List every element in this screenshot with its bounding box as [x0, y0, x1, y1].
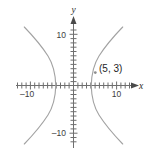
y-tick-label-pos-ten: 10	[57, 30, 67, 40]
point-marker-5-3	[94, 71, 97, 74]
y-axis-arrow-icon	[71, 16, 77, 24]
point-annotation-label: (5, 3)	[99, 63, 122, 74]
x-axis-label: x	[138, 81, 144, 91]
hyperbola-graph-figure: –10 10 10 –10 x y (5, 3)	[0, 0, 151, 157]
coordinate-plane: –10 10 10 –10 x y (5, 3)	[0, 0, 151, 157]
x-tick-label-neg-ten: –10	[20, 89, 34, 99]
x-tick-label-pos-ten: 10	[112, 89, 122, 99]
y-tick-label-neg-ten: –10	[52, 128, 66, 138]
x-axis-arrow-icon	[131, 83, 139, 89]
y-axis-label: y	[70, 5, 76, 15]
